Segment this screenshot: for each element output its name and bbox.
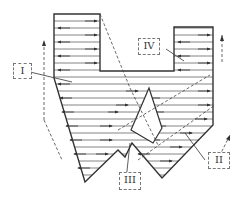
label-III: III (119, 172, 141, 190)
label-I: I (13, 63, 32, 79)
dashed-guides (44, 14, 230, 165)
label-IV: IV (138, 38, 160, 55)
label-II: II (208, 152, 230, 169)
inner-block (131, 88, 162, 143)
